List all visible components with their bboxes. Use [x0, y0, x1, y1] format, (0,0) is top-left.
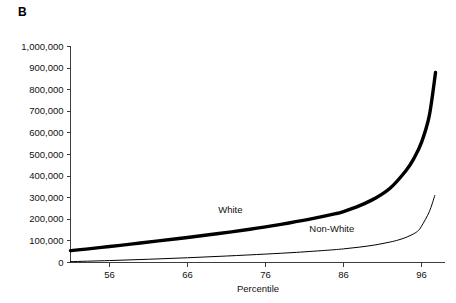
y-tick-label: 0	[58, 257, 63, 268]
y-tick-label: 900,000	[29, 62, 63, 73]
y-tick-label: 800,000	[29, 84, 63, 95]
series-line-white	[71, 72, 436, 250]
x-tick-label: 96	[416, 269, 427, 280]
series-annotation-label: Non-White	[309, 223, 354, 234]
y-tick-label: 300,000	[29, 192, 63, 203]
x-axis-title: Percentile	[237, 283, 279, 294]
series-lines	[71, 72, 436, 261]
y-tick-label: 400,000	[29, 170, 63, 181]
series-annotation-label: White	[218, 204, 242, 215]
x-axis: 5666768696	[71, 263, 445, 280]
x-tick-label: 56	[104, 269, 115, 280]
figure-panel-b: B 0100,000200,000300,000400,000500,00060…	[0, 0, 456, 303]
y-tick-label: 200,000	[29, 213, 63, 224]
x-tick-label: 66	[182, 269, 193, 280]
y-tick-label: 1,000,000	[21, 41, 63, 52]
x-tick-label: 86	[338, 269, 349, 280]
y-tick-label: 100,000	[29, 235, 63, 246]
x-tick-label: 76	[260, 269, 271, 280]
y-tick-label: 700,000	[29, 105, 63, 116]
y-tick-label: 600,000	[29, 127, 63, 138]
line-chart: 0100,000200,000300,000400,000500,000600,…	[0, 0, 456, 303]
y-axis: 0100,000200,000300,000400,000500,000600,…	[21, 41, 70, 268]
y-tick-label: 500,000	[29, 149, 63, 160]
